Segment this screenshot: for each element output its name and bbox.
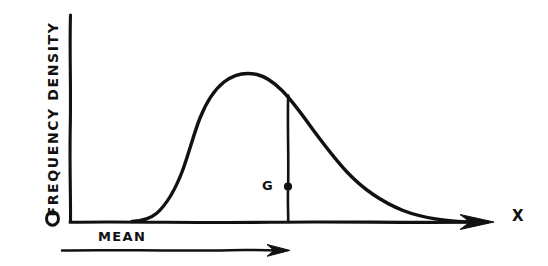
point-g-label: G [262,179,274,192]
point-g-marker [284,182,292,190]
mean-arrow-label: MEAN [98,230,146,243]
x-axis-title: X [512,209,525,224]
frequency-density-curve [132,74,480,223]
y-axis-line [70,15,71,221]
mean-arrow-shaft [62,250,283,251]
frequency-density-sketch-figure: FREQUENCY DENSITY X G MEAN [0,0,548,266]
y-axis-title: FREQUENCY DENSITY [46,19,60,219]
sketch-canvas [0,0,548,266]
